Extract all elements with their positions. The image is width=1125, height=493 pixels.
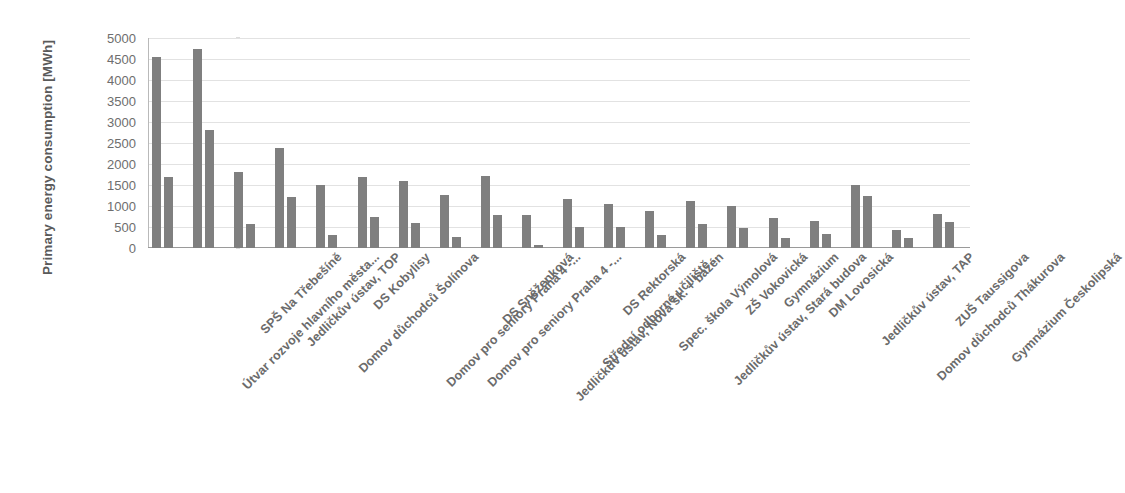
bar (822, 234, 831, 248)
bar (604, 204, 613, 248)
bar-group (641, 38, 682, 248)
bar (904, 238, 913, 249)
plot-area (148, 38, 970, 248)
y-tick-label: 4500 (107, 52, 136, 67)
x-axis-label: Jedličkův ústav, TAP (879, 250, 977, 348)
bar (440, 195, 449, 248)
bar (411, 223, 420, 248)
bar-group (395, 38, 436, 248)
bar-group (148, 38, 189, 248)
y-tick-label: 3500 (107, 94, 136, 109)
bar (152, 57, 161, 248)
bar-group (765, 38, 806, 248)
bar (657, 235, 666, 248)
bar (810, 221, 819, 248)
y-tick-label: 0 (129, 241, 136, 256)
bar (287, 197, 296, 248)
bar-group (518, 38, 559, 248)
bar (205, 130, 214, 248)
bar (645, 211, 654, 248)
bar (851, 185, 860, 248)
bar (399, 181, 408, 248)
bar (534, 245, 543, 248)
bar (769, 218, 778, 248)
y-tick-label: 1500 (107, 178, 136, 193)
y-tick-label: 3000 (107, 115, 136, 130)
x-axis-category-labels: Útvar rozvoje hlavního města...SPŠ Na Tř… (148, 250, 970, 480)
bar (781, 238, 790, 249)
bar-group (312, 38, 353, 248)
bar (863, 196, 872, 248)
y-axis-title: Primary energy consumption [MWh] (40, 13, 55, 303)
bar (698, 224, 707, 248)
bar-group (477, 38, 518, 248)
bar (563, 199, 572, 248)
bar-group (189, 38, 230, 248)
y-tick-label: 500 (114, 220, 136, 235)
bar (892, 230, 901, 248)
y-axis-tick-labels: 5000450040003500300025002000150010005000 (92, 0, 142, 260)
bar (575, 227, 584, 248)
bar-group (354, 38, 395, 248)
bar (370, 217, 379, 248)
bar-group (682, 38, 723, 248)
y-tick-label: 4000 (107, 73, 136, 88)
bar-group (230, 38, 271, 248)
y-tick-label: 1000 (107, 199, 136, 214)
bar (686, 201, 695, 248)
bar-groups (148, 38, 970, 248)
bar (358, 177, 367, 248)
bar-group (723, 38, 764, 248)
bar (246, 224, 255, 248)
bar (739, 228, 748, 248)
bar-group (929, 38, 970, 248)
bar (945, 222, 954, 248)
bar (727, 206, 736, 248)
bar (616, 227, 625, 248)
bar-group (271, 38, 312, 248)
bar-group (847, 38, 888, 248)
bar (328, 235, 337, 248)
bar-group (559, 38, 600, 248)
bar (493, 215, 502, 248)
bar (481, 176, 490, 248)
bar (522, 215, 531, 248)
x-axis-label: Gymnázium Českolipská (1009, 250, 1125, 366)
bar (452, 237, 461, 248)
bar-group (600, 38, 641, 248)
bar-group (806, 38, 847, 248)
bar-group (888, 38, 929, 248)
bar (164, 177, 173, 248)
bar-group (436, 38, 477, 248)
bar (234, 172, 243, 248)
bar (933, 214, 942, 248)
y-tick-label: 5000 (107, 31, 136, 46)
bar (316, 185, 325, 248)
y-tick-label: 2500 (107, 136, 136, 151)
bar (275, 148, 284, 248)
bar (193, 49, 202, 249)
y-tick-label: 2000 (107, 157, 136, 172)
